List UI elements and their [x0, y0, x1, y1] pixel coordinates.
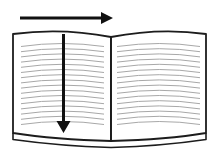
- right-page: [111, 31, 206, 141]
- horizontal-right-arrow: [20, 12, 113, 24]
- diagram-svg: [0, 0, 219, 155]
- open-book-diagram: [0, 0, 219, 155]
